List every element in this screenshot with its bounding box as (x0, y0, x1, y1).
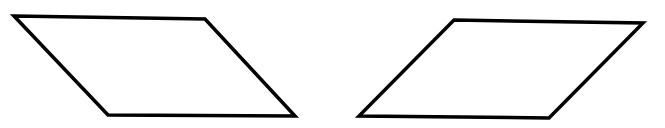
parallelogram-right (359, 20, 643, 118)
diagram-canvas (0, 0, 665, 128)
parallelogram-left (14, 16, 295, 116)
